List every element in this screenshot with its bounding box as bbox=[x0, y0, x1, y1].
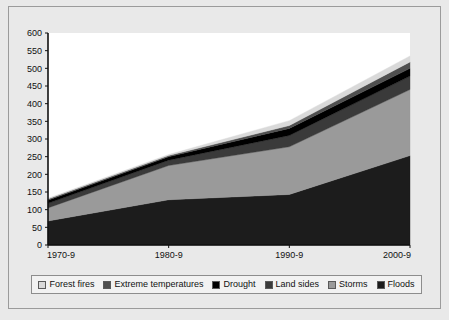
y-tick-label: 300 bbox=[27, 134, 42, 144]
x-tick-label: 1970-9 bbox=[47, 250, 75, 260]
legend-entry-drought[interactable]: Drought bbox=[212, 280, 255, 289]
y-tick-label: 0 bbox=[37, 240, 42, 250]
y-tick-label: 450 bbox=[27, 81, 42, 91]
y-tick-label: 350 bbox=[27, 117, 42, 127]
legend-swatch-icon bbox=[377, 281, 385, 289]
y-tick-label: 550 bbox=[27, 46, 42, 56]
chart-figure: 050100150200250300350400450500550600 197… bbox=[0, 0, 449, 320]
legend-entry-floods[interactable]: Floods bbox=[377, 280, 415, 289]
legend-label: Extreme temperatures bbox=[114, 280, 203, 289]
legend-swatch-icon bbox=[328, 281, 336, 289]
chart-legend: Forest firesExtreme temperaturesDroughtL… bbox=[31, 275, 422, 294]
legend-swatch-icon bbox=[265, 281, 273, 289]
y-tick-label: 600 bbox=[27, 28, 42, 38]
legend-label: Land sides bbox=[276, 280, 320, 289]
y-tick-label: 400 bbox=[27, 99, 42, 109]
y-tick-label: 150 bbox=[27, 187, 42, 197]
legend-entry-storms[interactable]: Storms bbox=[328, 280, 368, 289]
x-axis-ticks: 1970-91980-91990-92000-9 bbox=[47, 245, 411, 260]
y-tick-label: 250 bbox=[27, 152, 42, 162]
y-tick-label: 100 bbox=[27, 205, 42, 215]
legend-label: Forest fires bbox=[49, 280, 94, 289]
legend-entry-forest-fires[interactable]: Forest fires bbox=[38, 280, 94, 289]
x-tick-label: 1990-9 bbox=[275, 250, 303, 260]
x-tick-label: 1980-9 bbox=[155, 250, 183, 260]
legend-entry-extreme-temperatures[interactable]: Extreme temperatures bbox=[103, 280, 203, 289]
legend-swatch-icon bbox=[103, 281, 111, 289]
legend-swatch-icon bbox=[38, 281, 46, 289]
legend-swatch-icon bbox=[212, 281, 220, 289]
legend-label: Floods bbox=[388, 280, 415, 289]
stacked-area-chart: 050100150200250300350400450500550600 197… bbox=[0, 0, 449, 320]
legend-label: Storms bbox=[339, 280, 368, 289]
y-tick-label: 200 bbox=[27, 170, 42, 180]
legend-label: Drought bbox=[223, 280, 255, 289]
y-axis-ticks: 050100150200250300350400450500550600 bbox=[27, 28, 48, 250]
y-tick-label: 500 bbox=[27, 64, 42, 74]
y-tick-label: 50 bbox=[32, 223, 42, 233]
x-tick-label: 2000-9 bbox=[383, 250, 411, 260]
legend-entry-land-sides[interactable]: Land sides bbox=[265, 280, 320, 289]
